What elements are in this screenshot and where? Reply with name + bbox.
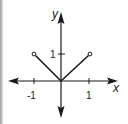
x-tick-label-pos1: 1: [86, 90, 92, 101]
y-axis-label: y: [51, 7, 59, 21]
y-axis: [58, 12, 66, 118]
y-tick-label-pos1: 1: [50, 49, 56, 60]
abs-value-curve: [32, 52, 92, 81]
open-endpoint-right: [88, 52, 92, 56]
graph: y x -1 1 1: [0, 0, 128, 124]
x-axis-label: x: [112, 81, 120, 95]
x-tick-label-neg1: -1: [27, 90, 36, 101]
open-endpoint-left: [32, 52, 36, 56]
